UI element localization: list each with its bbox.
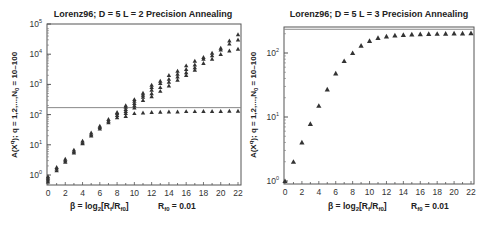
svg-text:18: 18 [199, 188, 209, 198]
svg-text:4: 4 [80, 188, 85, 198]
svg-text:103: 103 [29, 78, 42, 89]
data-point-triangle [193, 109, 197, 113]
data-point-triangle [342, 58, 347, 63]
data-point-triangle [167, 109, 171, 113]
right-panel: Lorenz96; D = 5 L = 3 Precision Annealin… [248, 9, 476, 212]
right-x-label: β = log2[Rf/Rf0] [328, 201, 387, 212]
data-point-triangle [227, 109, 231, 113]
right-y-label: A(Xq); q = 1,2,...,N0 = 10–100 [248, 51, 259, 158]
data-point-triangle [392, 33, 397, 38]
data-point-triangle [291, 159, 296, 164]
data-point-triangle [409, 32, 414, 37]
svg-text:102: 102 [29, 109, 42, 120]
data-point-triangle [219, 52, 223, 56]
svg-text:12: 12 [147, 188, 157, 198]
svg-text:100: 100 [29, 169, 42, 180]
data-point-triangle [426, 31, 431, 36]
right-title: Lorenz96; D = 5 L = 3 Precision Annealin… [290, 9, 469, 19]
data-point-triangle [132, 97, 136, 101]
data-point-triangle [72, 148, 76, 152]
data-point-triangle [210, 51, 214, 55]
data-point-triangle [460, 31, 465, 36]
data-point-triangle [141, 91, 145, 95]
data-point-triangle [201, 61, 205, 65]
data-point-triangle [308, 121, 313, 126]
right-plot-frame [284, 27, 474, 184]
svg-text:2: 2 [300, 187, 305, 197]
svg-text:0: 0 [46, 188, 51, 198]
svg-text:8: 8 [115, 188, 120, 198]
data-point-triangle [175, 69, 179, 73]
svg-text:20: 20 [216, 188, 226, 198]
figure: Lorenz96; D = 5 L = 2 Precision Annealin… [0, 0, 489, 227]
svg-text:14: 14 [164, 188, 174, 198]
data-point-triangle [184, 109, 188, 113]
svg-text:104: 104 [29, 48, 42, 59]
svg-text:101: 101 [266, 111, 279, 122]
data-point-triangle [149, 91, 153, 95]
data-point-triangle [333, 71, 338, 76]
data-point-triangle [210, 109, 214, 113]
data-point-triangle [54, 165, 58, 169]
left-rf0-label: Rf0 = 0.01 [158, 201, 196, 212]
data-point-triangle [451, 31, 456, 36]
data-point-triangle [219, 46, 223, 50]
svg-text:12: 12 [382, 187, 392, 197]
right-rf0-label: Rf0 = 0.01 [411, 201, 449, 212]
svg-text:10: 10 [130, 188, 140, 198]
svg-text:18: 18 [432, 187, 442, 197]
data-point-triangle [167, 77, 171, 81]
data-point-triangle [149, 83, 153, 87]
data-point-triangle [89, 131, 93, 135]
data-point-triangle [124, 103, 128, 107]
data-point-triangle [468, 30, 473, 35]
data-point-triangle [236, 47, 240, 51]
svg-text:100: 100 [266, 175, 279, 186]
svg-text:16: 16 [181, 188, 191, 198]
right-y-ticks: 100101102 [266, 34, 288, 186]
left-panel: Lorenz96; D = 5 L = 2 Precision Annealin… [9, 9, 243, 212]
svg-text:0: 0 [283, 187, 288, 197]
data-point-triangle [236, 38, 240, 42]
data-point-triangle [236, 109, 240, 113]
data-point-triangle [358, 43, 363, 48]
data-point-triangle [299, 140, 304, 145]
data-point-triangle [435, 31, 440, 36]
data-point-triangle [115, 110, 119, 114]
left-x-ticks: 0246810121416182022 [46, 182, 243, 198]
data-point-triangle [175, 109, 179, 113]
svg-text:105: 105 [29, 18, 42, 29]
data-point-triangle [158, 110, 162, 114]
svg-text:2: 2 [63, 188, 68, 198]
data-point-triangle [80, 139, 84, 143]
svg-text:4: 4 [316, 187, 321, 197]
data-point-triangle [158, 79, 162, 83]
data-point-triangle [401, 32, 406, 37]
data-point-triangle [443, 31, 448, 36]
data-point-triangle [219, 109, 223, 113]
data-point-triangle [158, 85, 162, 89]
left-title: Lorenz96; D = 5 L = 2 Precision Annealin… [54, 9, 233, 19]
data-point-triangle [167, 84, 171, 88]
data-point-triangle [375, 35, 380, 40]
data-point-triangle [418, 32, 423, 37]
left-y-label: A(Xq); q = 1,2,...,N0 = 10–100 [9, 51, 20, 158]
data-point-triangle [227, 49, 231, 53]
data-point-triangle [316, 103, 321, 108]
data-point-triangle [184, 67, 188, 71]
left-y-ticks: 100101102103104105 [29, 18, 51, 180]
right-data-points [282, 30, 473, 183]
data-point-triangle [184, 63, 188, 67]
data-point-triangle [236, 32, 240, 36]
right-x-ticks: 0246810121416182022 [283, 181, 476, 197]
svg-text:8: 8 [350, 187, 355, 197]
data-point-triangle [106, 117, 110, 121]
svg-text:22: 22 [233, 188, 243, 198]
left-x-label: β = log2[Rf/Rf0] [70, 201, 129, 212]
svg-text:16: 16 [416, 187, 426, 197]
data-point-triangle [201, 109, 205, 113]
svg-text:6: 6 [97, 188, 102, 198]
data-point-triangle [63, 157, 67, 161]
svg-text:101: 101 [29, 139, 42, 150]
data-point-triangle [141, 111, 145, 115]
